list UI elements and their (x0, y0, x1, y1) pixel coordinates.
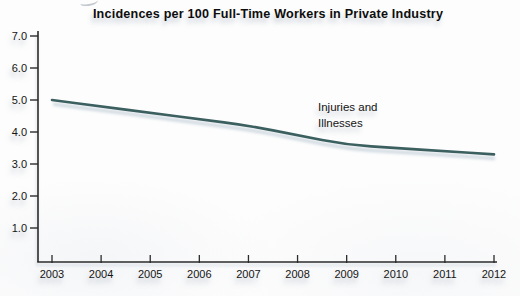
data-line (52, 100, 494, 154)
y-tick-label: 2.0 (12, 190, 27, 202)
line-chart: 1.02.03.04.05.06.07.02003200420052006200… (0, 0, 520, 296)
x-tick-label: 2003 (40, 268, 64, 280)
series-label: Injuries and Illnesses (318, 99, 377, 131)
axes (37, 31, 497, 262)
x-tick-label: 2008 (285, 268, 309, 280)
x-tick-label: 2009 (334, 268, 358, 280)
y-tick-label: 5.0 (12, 94, 27, 106)
x-tick-label: 2005 (138, 268, 162, 280)
y-tick-label: 4.0 (12, 126, 27, 138)
x-tick-label: 2010 (384, 268, 408, 280)
chart-canvas: Incidences per 100 Full-Time Workers in … (0, 0, 520, 296)
y-tick-label: 6.0 (12, 62, 27, 74)
y-tick-label: 7.0 (12, 30, 27, 42)
x-tick-label: 2012 (482, 268, 506, 280)
y-tick-label: 3.0 (12, 158, 27, 170)
x-axis-ticks: 2003200420052006200720082009201020112012 (40, 255, 506, 280)
y-tick-label: 1.0 (12, 222, 27, 234)
x-tick-label: 2006 (187, 268, 211, 280)
x-tick-label: 2011 (433, 268, 457, 280)
x-tick-label: 2007 (236, 268, 260, 280)
x-tick-label: 2004 (89, 268, 113, 280)
